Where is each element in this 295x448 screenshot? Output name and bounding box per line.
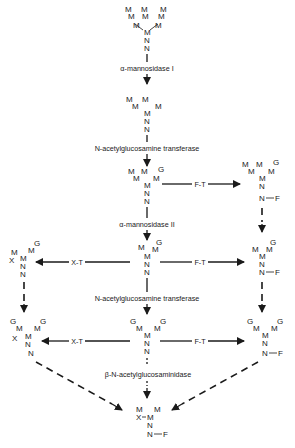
svg-text:N: N (147, 421, 153, 430)
svg-text:G: G (160, 317, 166, 326)
svg-text:M: M (16, 324, 23, 333)
svg-text:G: G (273, 158, 279, 167)
svg-text:N: N (259, 194, 265, 203)
svg-text:M: M (142, 95, 149, 104)
svg-text:M: M (141, 167, 148, 176)
svg-text:M: M (248, 167, 255, 176)
svg-text:X: X (136, 413, 142, 422)
glycan-gn2man3-fucose: G M G M M N N F (247, 317, 283, 358)
svg-text:M: M (266, 245, 273, 254)
svg-text:M: M (268, 167, 275, 176)
svg-text:N: N (147, 430, 153, 439)
svg-text:N: N (144, 125, 150, 134)
svg-text:M: M (152, 245, 159, 254)
svg-text:N: N (259, 182, 265, 191)
svg-text:G: G (34, 239, 40, 248)
svg-text:N: N (144, 44, 150, 53)
svg-text:M: M (28, 246, 35, 255)
glycan-gnman5: M M G M M M N N (128, 165, 164, 206)
glycan-man9: M M M M M M M M M N N (125, 5, 167, 53)
enzyme-fucosyl-transferase-2: F-T (194, 258, 206, 267)
svg-text:N: N (144, 197, 150, 206)
svg-text:M: M (154, 324, 161, 333)
glycan-gn2man3-xylose: G M G M X M N N (10, 317, 46, 358)
svg-text:F: F (275, 268, 280, 277)
svg-text:N: N (262, 339, 268, 348)
svg-text:M: M (154, 405, 161, 414)
svg-text:M: M (158, 12, 165, 21)
svg-text:F: F (163, 430, 168, 439)
svg-text:M: M (138, 243, 145, 252)
svg-text:M: M (34, 324, 41, 333)
enzyme-glcnac-transferase-1: N-acetylglucosamine transferase (95, 144, 200, 153)
svg-text:G: G (40, 317, 46, 326)
svg-text:M: M (133, 174, 140, 183)
glycan-gn2man3: G M G M M N N (130, 317, 166, 356)
svg-text:M: M (132, 102, 139, 111)
svg-text:X: X (9, 256, 15, 265)
svg-text:N: N (25, 340, 31, 349)
svg-text:F: F (275, 194, 280, 203)
svg-text:M: M (271, 324, 278, 333)
enzyme-glcnac-transferase-2: N-acetylglucosamine transferase (95, 294, 200, 303)
glycan-gnman3-fucose: M G M M N N F (252, 238, 280, 277)
svg-text:G: G (277, 317, 283, 326)
svg-text:X: X (12, 334, 18, 343)
enzyme-fucosyl-transferase: F-T (194, 180, 206, 189)
enzyme-xylosyl-transferase: X-T (71, 258, 83, 267)
svg-text:M: M (252, 245, 259, 254)
glycan-gnman3: M G M M N N (138, 238, 162, 277)
svg-text:G: G (158, 165, 164, 174)
glycan-gnman3-xylose: M G M X M N N (9, 239, 40, 279)
svg-text:N: N (20, 270, 26, 279)
svg-text:M: M (153, 174, 160, 183)
glycan-man3-xylose-fucose: M M X M N N F (136, 405, 168, 439)
enzyme-beta-hexosaminidase: β-N-acetylglucosaminidase (105, 370, 191, 379)
svg-text:F: F (278, 349, 283, 358)
svg-text:M: M (155, 102, 162, 111)
svg-text:M: M (128, 12, 135, 21)
svg-text:N: N (144, 347, 150, 356)
glycan-man5: M M M M M N N (126, 95, 162, 134)
svg-text:N: N (28, 349, 34, 358)
svg-text:M: M (253, 324, 260, 333)
enzyme-xylosyl-transferase-2: X-T (71, 337, 83, 346)
svg-text:M: M (136, 324, 143, 333)
svg-text:N: N (262, 349, 268, 358)
glycan-gnman5-fucose: M M G M M M N N F (242, 158, 280, 203)
enzyme-alpha-mannosidase-1: α-mannosidase I (120, 64, 173, 73)
svg-text:M: M (142, 12, 149, 21)
enzyme-fucosyl-transferase-3: F-T (194, 337, 206, 346)
pathway-diagram: M M M M M M M M M N N α-mannosidase I M … (0, 0, 295, 448)
enzyme-alpha-mannosidase-2: α-mannosidase II (119, 220, 174, 229)
svg-text:M: M (256, 160, 263, 169)
svg-text:N: N (144, 268, 150, 277)
svg-text:N: N (259, 268, 265, 277)
